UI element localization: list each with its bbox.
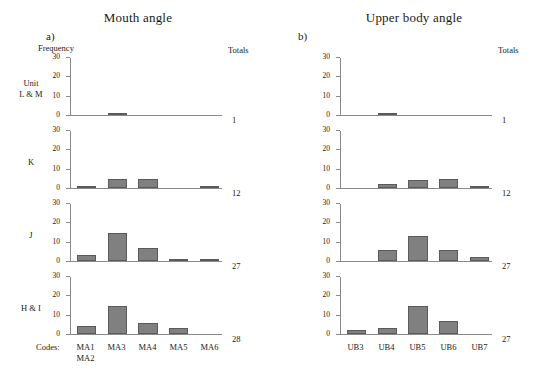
panel-letter-b: b)	[298, 30, 307, 42]
bar-slot	[194, 277, 225, 334]
x-axis-a-2	[70, 261, 222, 262]
bar-slot	[194, 58, 225, 115]
row-total-a-0: 1	[232, 115, 236, 125]
row-label-a-1: K	[8, 157, 54, 168]
y-tick-label: 10	[323, 165, 331, 173]
x-axis-b-1	[340, 188, 492, 189]
row-total-b-0: 1	[502, 115, 506, 125]
bar-slot	[464, 58, 495, 115]
y-tick-label: 20	[323, 292, 331, 300]
y-tick-label: 10	[323, 311, 331, 319]
code-label: UB4	[371, 342, 402, 353]
bar-slot	[71, 277, 102, 334]
bar-slot	[433, 277, 464, 334]
bar-group-a-0	[71, 58, 225, 115]
y-tick-label: 30	[323, 126, 331, 134]
y-tick-b-1-20: 20	[336, 149, 340, 150]
row-label-a-2: J	[8, 230, 54, 241]
bar-group-b-2	[341, 204, 495, 261]
y-tick-a-2-30: 30	[66, 203, 70, 204]
chart-row-a-3: H & I 0 10 20 30 28	[0, 277, 276, 339]
bar-slot	[464, 204, 495, 261]
y-tick-a-1-20: 20	[66, 149, 70, 150]
y-tick-a-1-30: 30	[66, 130, 70, 131]
y-tick-a-3-20: 20	[66, 295, 70, 296]
bar-slot	[71, 131, 102, 188]
bar-group-b-1	[341, 131, 495, 188]
code-label: UB7	[464, 342, 495, 353]
bar-slot	[102, 131, 133, 188]
row-total-b-2: 27	[502, 261, 511, 271]
y-tick-a-2-10: 10	[66, 242, 70, 243]
x-axis-b-3	[340, 334, 492, 335]
row-label-line: K	[8, 157, 54, 168]
y-tick-b-0-10: 10	[336, 96, 340, 97]
y-tick-label: 10	[53, 92, 61, 100]
y-tick-b-3-0: 0	[336, 334, 340, 335]
bar-slot	[102, 58, 133, 115]
row-total-a-1: 12	[232, 188, 241, 198]
y-tick-b-1-10: 10	[336, 169, 340, 170]
code-label-line: MA6	[194, 342, 225, 353]
y-tick-label: 10	[323, 92, 331, 100]
code-label: UB5	[402, 342, 433, 353]
y-tick-label: 30	[323, 53, 331, 61]
bar-slot	[341, 58, 372, 115]
row-label-line: J	[8, 230, 54, 241]
bar	[169, 259, 188, 261]
chart-row-a-0: Unit L & M 0 10 20 30 1	[0, 58, 276, 120]
y-tick-label: 30	[53, 126, 61, 134]
row-label-a-0: Unit L & M	[8, 78, 54, 100]
bar	[439, 250, 458, 261]
bar-slot	[372, 58, 403, 115]
bar	[408, 306, 427, 335]
y-tick-a-1-10: 10	[66, 169, 70, 170]
x-axis-codes-a: Codes: MA1MA2MA3MA4MA5MA6	[0, 342, 276, 372]
row-label-line: L & M	[8, 89, 54, 100]
chart-row-a-1: K 0 10 20 30 12	[0, 131, 276, 193]
bar-group-a-3	[71, 277, 225, 334]
row-label-line: Unit	[8, 78, 54, 89]
bar	[108, 179, 127, 189]
y-tick-label: 30	[53, 199, 61, 207]
bar-slot	[433, 58, 464, 115]
y-tick-label: 0	[56, 111, 60, 119]
bar	[470, 257, 489, 261]
bar	[138, 323, 157, 334]
bar-group-b-0	[341, 58, 495, 115]
bar	[169, 328, 188, 334]
row-total-b-1: 12	[502, 188, 511, 198]
code-label-line: UB5	[402, 342, 433, 353]
bar	[138, 248, 157, 261]
codes-title-a: Codes:	[36, 342, 60, 352]
y-tick-label: 10	[323, 238, 331, 246]
y-tick-b-1-30: 30	[336, 130, 340, 131]
y-tick-a-0-30: 30	[66, 57, 70, 58]
y-tick-b-2-10: 10	[336, 242, 340, 243]
panel-letter-a: a)	[46, 30, 55, 42]
x-axis-codes-b: UB3UB4UB5UB6UB7	[276, 342, 552, 372]
y-tick-label: 20	[323, 219, 331, 227]
y-tick-label: 30	[323, 272, 331, 280]
y-tick-label: 0	[56, 257, 60, 265]
y-tick-b-2-0: 0	[336, 261, 340, 262]
y-tick-label: 0	[56, 184, 60, 192]
code-label-line: MA3	[101, 342, 132, 353]
code-label: UB3	[340, 342, 371, 353]
bar	[439, 321, 458, 334]
code-label-line: UB6	[433, 342, 464, 353]
bar-slot	[464, 277, 495, 334]
bar-slot	[464, 131, 495, 188]
bar-slot	[163, 204, 194, 261]
bar	[408, 236, 427, 261]
bar-slot	[163, 131, 194, 188]
code-label: UB6	[433, 342, 464, 353]
code-label-line: MA1	[70, 342, 101, 353]
chart-row-a-2: J 0 10 20 30 27	[0, 204, 276, 266]
y-tick-b-3-20: 20	[336, 295, 340, 296]
code-label-line: UB7	[464, 342, 495, 353]
bar-slot	[71, 58, 102, 115]
code-label-line: UB3	[340, 342, 371, 353]
bar-slot	[372, 204, 403, 261]
bar-slot	[341, 277, 372, 334]
